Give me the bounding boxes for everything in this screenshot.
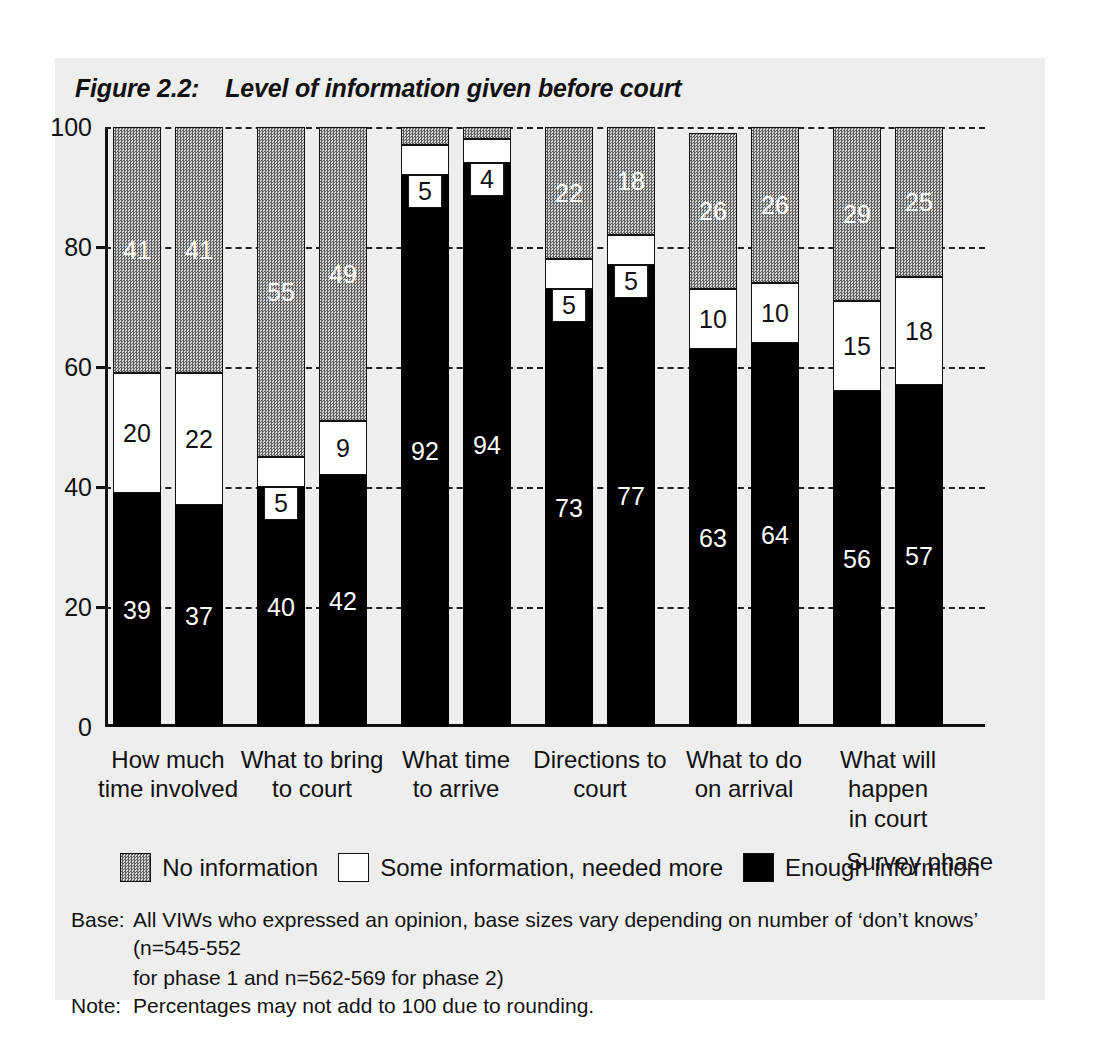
x-axis-category-label-line: time involved [98,774,238,803]
y-axis-tick-label: 100 [50,113,92,142]
bar-value-label: 40 [267,595,295,620]
bar-segment-enough[interactable]: 73 [545,289,593,727]
x-axis-category-label-line: to arrive [402,774,510,803]
bar-stack[interactable]: 291556 [833,127,881,727]
bar-segment-none[interactable] [463,127,511,139]
bar-value-label: 94 [473,433,501,458]
y-axis-tick-label: 20 [64,593,92,622]
bar-segment-some[interactable]: 5 [607,235,655,265]
bar-value-label: 39 [123,598,151,623]
bar-segment-some[interactable]: 5 [257,457,305,487]
bar-value-label: 92 [411,439,439,464]
x-axis-category-label: How muchtime involved [98,745,238,804]
figure-panel: Figure 2.2:Level of information given be… [55,58,1045,1000]
bar-stack[interactable]: 412039 [113,127,161,727]
bar-value-label: 41 [123,238,151,263]
bar-segment-enough[interactable]: 56 [833,391,881,727]
bar-value-label: 64 [761,523,789,548]
bar-value-label: 63 [699,526,727,551]
bar-value-label: 18 [617,169,645,194]
bar-segment-none[interactable]: 22 [545,127,593,259]
bar-segment-enough[interactable]: 64 [751,343,799,727]
bar-stack[interactable]: 261064 [751,127,799,727]
bar-value-label: 56 [843,547,871,572]
bar-value-label: 5 [264,487,298,520]
bar-value-label: 5 [614,265,648,298]
bar-segment-enough[interactable]: 92 [401,175,449,727]
bar-segment-none[interactable]: 26 [689,133,737,289]
bar-segment-none[interactable] [401,127,449,145]
bar-value-label: 29 [843,202,871,227]
bar-segment-none[interactable]: 29 [833,127,881,301]
legend-item-some[interactable]: Some information, needed more [338,853,723,882]
legend-item-none[interactable]: No information [120,853,318,882]
legend-swatch-none [120,853,151,882]
bar-segment-some[interactable]: 5 [401,145,449,175]
bar-segment-none[interactable]: 55 [257,127,305,457]
bar-value-label: 49 [329,262,357,287]
footnote-continuation: for phase 1 and n=562-569 for phase 2) [133,964,1031,992]
bar-segment-some[interactable]: 4 [463,139,511,163]
bar-value-label: 26 [761,193,789,218]
footnote-text: Percentages may not add to 100 due to ro… [133,992,1031,1020]
bar-segment-some[interactable]: 18 [895,277,943,385]
bar-value-label: 55 [267,280,295,305]
footnote-row: Base:All VIWs who expressed an opinion, … [71,906,1031,962]
bar-segment-enough[interactable]: 39 [113,493,161,727]
y-axis-tick-label: 0 [78,713,92,742]
x-axis-category-label-line: in court [810,804,967,833]
legend-item-enough[interactable]: Enough informtion [743,853,980,882]
footnote-key: Base: [71,906,133,934]
bar-value-label: 41 [185,238,213,263]
figure-title: Figure 2.2:Level of information given be… [75,74,681,103]
bar-segment-some[interactable]: 9 [319,421,367,475]
bar-stack[interactable]: 22573 [545,127,593,727]
y-axis-tick-mark [96,366,105,369]
bar-value-label: 73 [555,496,583,521]
bar-segment-enough[interactable]: 40 [257,487,305,727]
bar-segment-none[interactable]: 25 [895,127,943,277]
bar-segment-enough[interactable]: 77 [607,265,655,727]
x-axis-category-label-line: What to do [686,745,802,774]
bar-stack[interactable]: 412237 [175,127,223,727]
bar-value-label: 10 [761,301,789,326]
x-axis-category-label: What to doon arrival [686,745,802,804]
legend-label: Some information, needed more [380,854,723,882]
bar-segment-some[interactable]: 15 [833,301,881,391]
figure-title-text: Level of information given before court [225,74,681,102]
bar-segment-none[interactable]: 41 [175,127,223,373]
bar-segment-none[interactable]: 18 [607,127,655,235]
bar-segment-enough[interactable]: 42 [319,475,367,727]
bar-segment-some[interactable]: 22 [175,373,223,505]
bar-segment-enough[interactable]: 94 [463,163,511,727]
bar-segment-some[interactable]: 20 [113,373,161,493]
bar-segment-none[interactable]: 41 [113,127,161,373]
bar-segment-none[interactable]: 49 [319,127,367,421]
bar-stack[interactable]: 592 [401,127,449,727]
legend-label: Enough informtion [785,854,980,882]
figure-number: Figure 2.2: [75,74,199,102]
bar-segment-enough[interactable]: 37 [175,505,223,727]
x-axis-category-label-line: What to bring [241,745,384,774]
x-axis-category-label-line: Directions to [533,745,666,774]
x-axis-category-label: What timeto arrive [402,745,510,804]
bar-stack[interactable]: 494 [463,127,511,727]
bar-segment-some[interactable]: 5 [545,259,593,289]
bar-segment-enough[interactable]: 57 [895,385,943,727]
bar-value-label: 15 [843,334,871,359]
bar-segment-some[interactable]: 10 [751,283,799,343]
bar-stack[interactable]: 251857 [895,127,943,727]
bar-value-label: 20 [123,421,151,446]
y-axis-tick-label: 80 [64,233,92,262]
y-axis-tick-mark [96,246,105,249]
bar-segment-none[interactable]: 26 [751,127,799,283]
bar-value-label: 77 [617,484,645,509]
chart-footnotes: Base:All VIWs who expressed an opinion, … [71,906,1031,1022]
bar-stack[interactable]: 261063 [689,133,737,727]
bar-stack[interactable]: 49942 [319,127,367,727]
bar-stack[interactable]: 55540 [257,127,305,727]
bar-stack[interactable]: 18577 [607,127,655,727]
bar-segment-enough[interactable]: 63 [689,349,737,727]
bar-segment-some[interactable]: 10 [689,289,737,349]
x-axis-category-label-line: to court [241,774,384,803]
